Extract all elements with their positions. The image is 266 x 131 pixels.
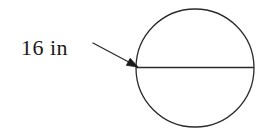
figure-container: 16 in: [0, 0, 266, 131]
dimension-label: 16 in: [21, 36, 68, 60]
leader-line: [93, 43, 130, 63]
circle-diameter-drawing: [0, 0, 266, 131]
